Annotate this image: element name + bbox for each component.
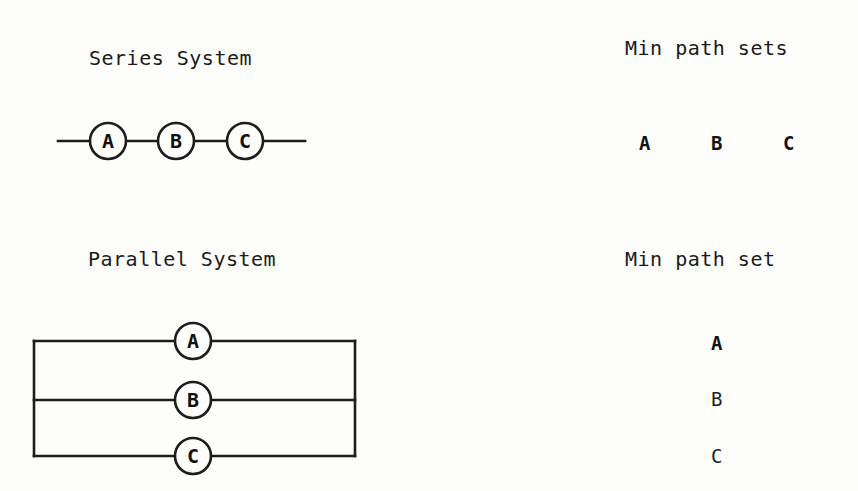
min-path-sets-title: Min path sets [625, 38, 788, 58]
parallel-node-label-a: A [187, 329, 199, 353]
parallel-system-diagram: ABC [0, 0, 858, 491]
parallel-node-c: C [175, 438, 211, 474]
parallel-node-label-b: B [187, 388, 199, 412]
parallel-node-a: A [175, 323, 211, 359]
parallel-node-b: B [175, 382, 211, 418]
min-path-set-title: Min path set [625, 249, 776, 269]
min-path-set-item-a: A [711, 334, 723, 353]
min-path-sets-item-c: C [783, 134, 795, 153]
min-path-set-item-c: C [711, 447, 723, 466]
parallel-node-label-c: C [187, 444, 199, 468]
min-path-sets-item-b: B [711, 134, 723, 153]
diagram-page: Series System ABC Parallel System ABC Mi… [0, 0, 858, 491]
min-path-set-item-b: B [711, 390, 723, 409]
min-path-sets-item-a: A [639, 134, 651, 153]
